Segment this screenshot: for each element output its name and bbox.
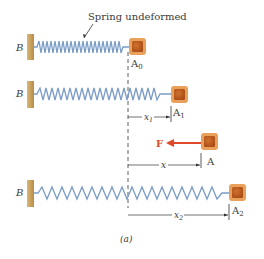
dim-arrowhead-icon [166,116,170,119]
wall [27,81,34,108]
block-a0-inner [132,41,143,52]
spring-compressed [34,41,129,53]
wall [27,180,34,207]
block-label-a2: A2 [231,205,244,218]
row-undeformed: B A0 [15,34,146,71]
dim-label-x1: x1 [144,112,153,124]
wall [27,34,34,60]
spring-diagram: Spring undeformed B A0 B x1 A1 F [0,0,264,259]
block-a1-inner [174,89,185,100]
force-arrowhead-icon [166,139,174,147]
spring-stretched [34,88,171,100]
spring-stretched-far [34,187,230,199]
block-label-a: A [206,156,215,167]
block-label-a1: A1 [172,107,185,120]
block-a-inner [204,136,215,147]
dim-label-x2: x2 [174,210,183,222]
wall-label: B [15,88,23,99]
row-stretched-x1: B x1 A1 [15,81,188,124]
dim-label-x: x [161,160,166,170]
wall-label: B [15,42,23,53]
force-label: F [156,138,163,149]
row-force: F x A [128,133,218,170]
dim-arrowhead-icon [224,214,228,217]
block-label-a0: A0 [130,58,143,71]
row-stretched-x2: B x2 A2 [15,180,246,222]
dim-arrowhead-icon [196,164,200,167]
block-a2-inner [232,187,243,198]
panel-label: (a) [120,234,133,244]
wall-label: B [15,187,23,198]
caption-text: Spring undeformed [88,11,187,22]
